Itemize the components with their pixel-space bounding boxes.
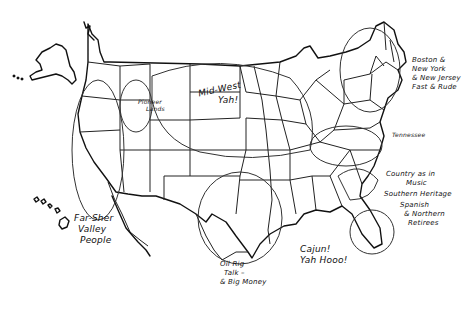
label-tennessee: Tennessee xyxy=(392,130,425,139)
label-pacific: Far-Sher Valley People xyxy=(74,213,113,246)
alaska-outline xyxy=(30,44,76,84)
label-midwest: Mid-West Yah! xyxy=(198,84,241,106)
hawaii-outline xyxy=(34,197,69,229)
label-spanish-retirees: Spanish & Northern Retirees xyxy=(400,201,445,228)
region-pacific xyxy=(72,80,124,220)
region-tennessee xyxy=(310,126,382,166)
dialect-regions xyxy=(72,28,400,264)
contiguous-us-outline xyxy=(78,22,406,258)
label-country-music: Country as in Music xyxy=(386,170,435,188)
label-northeast: Boston & New York & New Jersey Fast & Ru… xyxy=(412,56,461,92)
label-southern-heritage: Southern Heritage xyxy=(384,190,452,199)
region-florida xyxy=(350,210,394,254)
label-pioneer: Pioneer Lands xyxy=(138,98,165,112)
label-texas: Oil Rig Talk – & Big Money xyxy=(220,260,267,287)
label-cajun: Cajun! Yah Hooo! xyxy=(300,244,347,266)
